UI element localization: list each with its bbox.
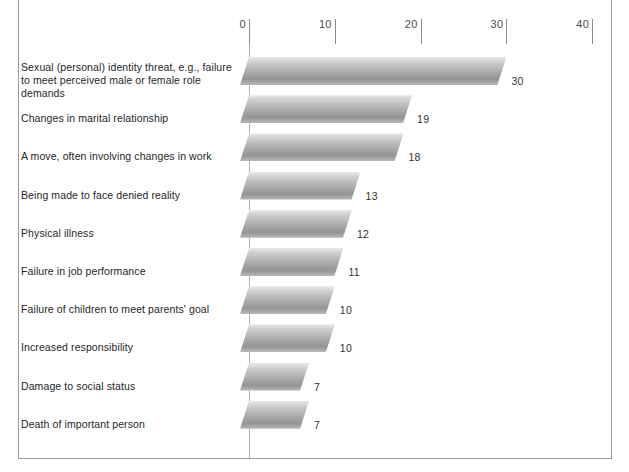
category-label: Being made to face denied reality [21,189,236,202]
bar [240,95,412,123]
bar [240,401,309,429]
bar [240,210,352,238]
category-label: Damage to social status [21,380,236,393]
bar-value-label: 12 [357,228,369,240]
bar-value-label: 30 [511,75,523,87]
category-label: Failure in job performance [21,265,236,278]
bar-row: Being made to face denied reality13 [0,172,629,210]
bar [240,248,343,276]
bar [240,324,335,352]
category-label-line: Failure in job performance [21,265,236,278]
category-label-line: Damage to social status [21,380,236,393]
bar-row: Death of important person7 [0,401,629,439]
axis-tick-label: 40 [576,18,589,31]
axis-tick-mark [592,19,593,44]
category-label-line: Sexual (personal) identity threat, e.g.,… [21,61,236,74]
category-label: Increased responsibility [21,341,236,354]
bar-row: A move, often involving changes in work1… [0,133,629,171]
bar-value-label: 10 [340,342,352,354]
bar-row: Sexual (personal) identity threat, e.g.,… [0,57,629,95]
axis-tick-mark [335,19,336,44]
axis-tick-label: 30 [491,18,504,31]
axis-tick-mark [506,19,507,44]
bar [240,57,506,85]
bar [240,286,335,314]
axis-tick-label: 0 [240,18,246,31]
bar-chart: 010203040 Sexual (personal) identity thr… [0,0,629,472]
category-label: Failure of children to meet parents' goa… [21,303,236,316]
category-label: Death of important person [21,418,236,431]
category-label-line: Changes in marital relationship [21,112,236,125]
category-label: Sexual (personal) identity threat, e.g.,… [21,61,236,100]
bar-value-label: 19 [417,113,429,125]
bar-value-label: 13 [366,190,378,202]
axis-tick-mark [421,19,422,44]
bar-value-label: 7 [314,419,320,431]
category-label-line: Being made to face denied reality [21,189,236,202]
category-label-line: A move, often involving changes in work [21,150,236,163]
category-label: A move, often involving changes in work [21,150,236,163]
bar-value-label: 10 [340,304,352,316]
bar-row: Physical illness12 [0,210,629,248]
axis-tick-mark [249,19,250,44]
category-label: Physical illness [21,227,236,240]
bar-row: Increased responsibility10 [0,324,629,362]
axis-tick-label: 20 [405,18,418,31]
bar-row: Failure of children to meet parents' goa… [0,286,629,324]
bar [240,133,403,161]
bar-value-label: 11 [348,266,360,278]
axis-tick-label: 10 [319,18,332,31]
bar-row: Changes in marital relationship19 [0,95,629,133]
bar-row: Damage to social status7 [0,363,629,401]
category-label-line: Increased responsibility [21,341,236,354]
category-label: Changes in marital relationship [21,112,236,125]
bar [240,363,309,391]
bar-value-label: 18 [408,151,420,163]
category-label-line: Physical illness [21,227,236,240]
bar [240,172,361,200]
category-label-line: Failure of children to meet parents' goa… [21,303,236,316]
bar-row: Failure in job performance11 [0,248,629,286]
category-label-line: Death of important person [21,418,236,431]
bar-value-label: 7 [314,381,320,393]
